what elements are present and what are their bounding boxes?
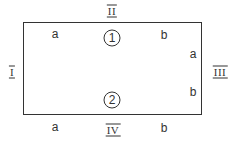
point-label-right-b: b — [190, 86, 197, 98]
side-label-top: II — [107, 5, 117, 18]
circled-label-2: 2 — [104, 92, 121, 109]
point-label-bottom-b: b — [161, 122, 168, 134]
side-label-bottom: IV — [106, 124, 121, 137]
point-label-right-a: a — [190, 48, 197, 60]
side-label-left: I — [9, 66, 15, 79]
side-label-right: III — [213, 66, 228, 79]
circled-label-1: 1 — [104, 30, 121, 47]
point-label-bottom-a: a — [52, 121, 59, 133]
point-label-top-a: a — [52, 28, 59, 40]
point-label-top-b: b — [161, 29, 168, 41]
